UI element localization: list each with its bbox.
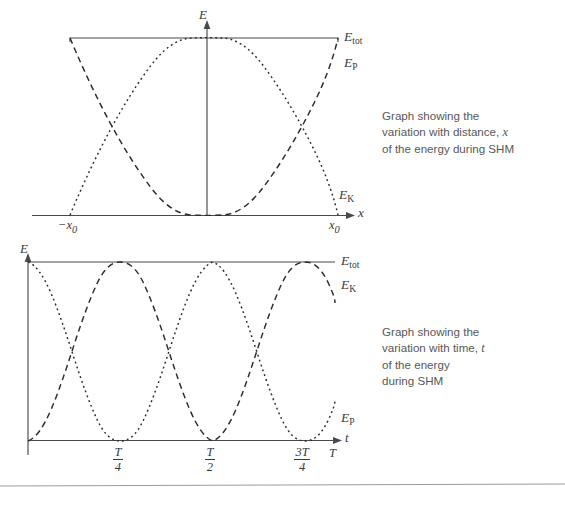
top-y-axis-label: E bbox=[199, 8, 207, 21]
bottom-ep-label: EP bbox=[341, 411, 355, 425]
top-tick-x0-sub: 0 bbox=[335, 224, 340, 235]
bottom-etot-label-base: E bbox=[341, 253, 349, 268]
top-caption-line-3: of the energy during SHM bbox=[382, 142, 514, 155]
graph-bottom-time bbox=[25, 253, 342, 455]
bottom-tick-t4-denominator: 4 bbox=[113, 460, 123, 473]
bottom-tick-3t4-numerator: 3T bbox=[294, 446, 310, 460]
top-graph-caption: Graph showing thevariation with distance… bbox=[382, 108, 552, 157]
top-etot-label: Etot bbox=[344, 30, 362, 44]
top-ek-label: EK bbox=[339, 188, 354, 202]
shm-energy-figure: E x Etot EP EK −x0 x0 Graph showing thev… bbox=[0, 0, 565, 508]
top-etot-label-sub: tot bbox=[352, 36, 362, 46]
bottom-x-axis-label: t bbox=[345, 431, 349, 444]
bottom-caption-line-2a: variation with time, bbox=[382, 341, 481, 354]
bottom-caption-line-3: of the energy bbox=[382, 358, 450, 371]
top-ep-label: EP bbox=[344, 56, 358, 70]
top-ek-curve bbox=[70, 38, 338, 215]
bottom-etot-label-sub: tot bbox=[349, 260, 359, 270]
bottom-ep-curve bbox=[28, 262, 335, 441]
top-ek-label-base: E bbox=[339, 187, 347, 202]
top-tick-label-x0: x0 bbox=[329, 219, 340, 235]
bottom-caption-line-2b: t bbox=[481, 341, 484, 355]
bottom-ep-label-sub: P bbox=[349, 417, 354, 427]
bottom-ek-curve bbox=[28, 262, 335, 441]
top-caption-line-1: Graph showing the bbox=[382, 109, 479, 122]
bottom-graph-caption: Graph showing thevariation with time, to… bbox=[382, 324, 552, 390]
bottom-ep-label-base: E bbox=[341, 410, 349, 425]
bottom-etot-label: Etot bbox=[341, 254, 359, 268]
bottom-tick-t2-denominator: 2 bbox=[205, 460, 215, 473]
top-tick-negative-x0-sub: 0 bbox=[72, 224, 77, 235]
page-divider-rule bbox=[0, 484, 565, 486]
bottom-tick-t4-numerator: T bbox=[113, 446, 123, 460]
bottom-ek-label-base: E bbox=[341, 277, 349, 292]
bottom-tick-label-t-over-2: T2 bbox=[205, 446, 215, 474]
bottom-x-axis-arrowhead bbox=[333, 437, 342, 444]
top-x-axis-label: x bbox=[358, 206, 364, 219]
bottom-caption-line-1: Graph showing the bbox=[382, 325, 479, 338]
bottom-ek-label: EK bbox=[341, 278, 356, 292]
bottom-tick-t2-numerator: T bbox=[205, 446, 215, 460]
top-ep-label-sub: P bbox=[352, 62, 357, 72]
top-ek-label-sub: K bbox=[347, 194, 354, 204]
bottom-tick-3t4-denominator: 4 bbox=[294, 460, 310, 473]
top-caption-line-2b: x bbox=[503, 125, 509, 139]
bottom-tick-label-t: T bbox=[329, 447, 336, 460]
top-etot-level-line bbox=[70, 38, 338, 42]
top-etot-label-base: E bbox=[344, 29, 352, 44]
top-tick-label-negative-x0: −x0 bbox=[58, 219, 77, 235]
bottom-ek-label-sub: K bbox=[349, 284, 356, 294]
top-tick-negative-x0-base: −x bbox=[58, 218, 72, 232]
bottom-tick-label-t-over-4: T4 bbox=[113, 446, 123, 474]
bottom-y-axis-label: E bbox=[20, 242, 28, 255]
graph-top-displacement bbox=[32, 20, 355, 219]
bottom-caption-line-4: during SHM bbox=[382, 374, 443, 387]
top-ep-label-base: E bbox=[344, 55, 352, 70]
top-caption-line-2a: variation with distance, bbox=[382, 125, 503, 138]
top-ep-curve bbox=[70, 38, 338, 215]
bottom-tick-label-3t-over-4: 3T4 bbox=[294, 446, 310, 474]
figure-canvas bbox=[0, 0, 565, 508]
top-x-axis-arrowhead bbox=[346, 212, 355, 219]
